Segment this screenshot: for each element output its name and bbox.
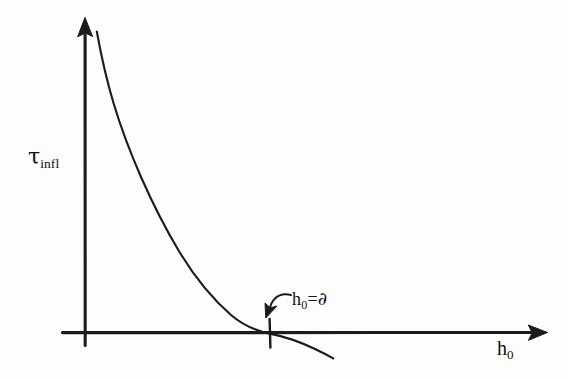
y-axis-label-subscript: infl bbox=[40, 156, 59, 171]
figure-canvas: τinfl h0 h0=∂ bbox=[0, 0, 568, 379]
annotation-symbol: h bbox=[292, 289, 301, 309]
x-axis-label-symbol: h bbox=[497, 337, 507, 359]
curve-zero-crossing-annotation: h0=∂ bbox=[292, 290, 327, 311]
x-axis-label-subscript: 0 bbox=[507, 347, 514, 362]
x-axis-label: h0 bbox=[497, 338, 514, 361]
x-axis-tick-mark bbox=[270, 319, 271, 348]
annotation-equals-sign: = bbox=[307, 289, 317, 309]
y-axis-label-symbol: τ bbox=[28, 144, 40, 169]
annotation-value: ∂ bbox=[318, 288, 328, 309]
y-axis-label: τinfl bbox=[28, 146, 59, 171]
chart-drawing bbox=[0, 0, 568, 379]
